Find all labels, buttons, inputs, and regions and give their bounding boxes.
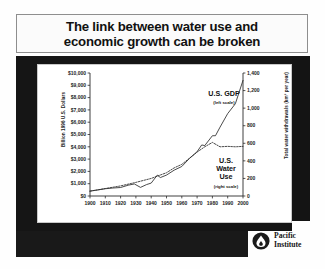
svg-text:1980: 1980	[207, 200, 218, 206]
series-label-us-water-use: U.S. Water Use (right scale)	[198, 157, 254, 191]
chart-frame-dark-right	[292, 56, 310, 221]
svg-text:$0: $0	[80, 193, 86, 199]
page-title: The link between water use and economic …	[16, 14, 308, 53]
svg-text:$1,000: $1,000	[71, 180, 87, 186]
svg-text:0: 0	[247, 193, 250, 199]
poster-page: The link between water use and economic …	[0, 0, 325, 269]
svg-text:1990: 1990	[222, 200, 233, 206]
page-title-line-2: economic growth can be broken	[64, 34, 260, 49]
svg-text:$9,000: $9,000	[71, 82, 87, 88]
chart-frame-dark-bottom	[16, 231, 248, 257]
water-drop-circle-icon	[252, 232, 270, 250]
svg-text:$2,000: $2,000	[71, 168, 87, 174]
svg-text:1,400: 1,400	[247, 70, 260, 76]
svg-text:800: 800	[247, 122, 256, 128]
org-name-line-2: Institute	[274, 241, 301, 250]
svg-text:1910: 1910	[100, 200, 111, 206]
svg-text:$6,000: $6,000	[71, 119, 87, 125]
svg-text:$5,000: $5,000	[71, 131, 87, 137]
svg-text:1940: 1940	[146, 200, 157, 206]
svg-text:1950: 1950	[161, 200, 172, 206]
pacific-institute-wordmark: Pacific Institute	[274, 232, 301, 249]
x-axis-ticks: 1900191019201930194019501960197019801990…	[84, 196, 248, 206]
chart-panel: Billion 1996 U.S. Dollars Total water wi…	[37, 64, 292, 223]
svg-text:$8,000: $8,000	[71, 94, 87, 100]
page-title-line-1: The link between water use and	[66, 19, 258, 34]
svg-text:$7,000: $7,000	[71, 107, 87, 113]
series-label-us-gdp-name: U.S. GDP	[193, 90, 255, 98]
pacific-institute-logo: Pacific Institute	[252, 232, 301, 250]
series-label-us-water-use-line3: Use	[198, 173, 254, 181]
svg-text:$4,000: $4,000	[71, 144, 87, 150]
svg-text:1960: 1960	[176, 200, 187, 206]
svg-text:1900: 1900	[84, 200, 95, 206]
svg-text:2000: 2000	[237, 200, 248, 206]
series-label-us-gdp-scale: (left scale)	[193, 99, 255, 107]
series-label-us-gdp: U.S. GDP (left scale)	[193, 90, 255, 107]
svg-text:1970: 1970	[192, 200, 203, 206]
series-label-us-water-use-scale: (right scale)	[198, 183, 254, 191]
svg-text:1920: 1920	[115, 200, 126, 206]
svg-text:$3,000: $3,000	[71, 156, 87, 162]
svg-text:$10,000: $10,000	[68, 70, 86, 76]
y-axis-left-ticks: $0$1,000$2,000$3,000$4,000$5,000$6,000$7…	[68, 70, 90, 199]
chart-plot-area: $0$1,000$2,000$3,000$4,000$5,000$6,000$7…	[38, 65, 293, 224]
svg-text:600: 600	[247, 140, 256, 146]
svg-text:1930: 1930	[130, 200, 141, 206]
